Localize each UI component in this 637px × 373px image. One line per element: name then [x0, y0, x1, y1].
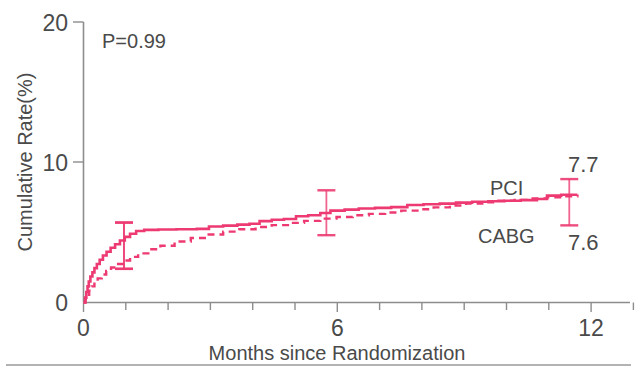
x-axis-title: Months since Randomization — [209, 342, 466, 364]
cabg-final-value-label: 7.6 — [568, 230, 599, 255]
y-tick-label-10: 10 — [42, 150, 68, 176]
x-tick-label-12: 12 — [578, 315, 604, 341]
y-tick-label-20: 20 — [42, 10, 68, 36]
chart-background — [0, 0, 637, 373]
figure-container: 20 10 0 0 6 12 Cumulative Rate(%) Months… — [0, 0, 637, 373]
p-value-annotation: P=0.99 — [102, 30, 166, 52]
cabg-series-label: CABG — [478, 225, 535, 247]
pci-final-value-label: 7.7 — [568, 152, 599, 177]
pci-series-label: PCI — [490, 177, 523, 199]
y-tick-label-0: 0 — [55, 290, 68, 316]
y-axis-title: Cumulative Rate(%) — [14, 73, 36, 252]
x-tick-label-0: 0 — [77, 315, 90, 341]
x-tick-label-6: 6 — [331, 315, 344, 341]
cumulative-event-rate-chart: 20 10 0 0 6 12 Cumulative Rate(%) Months… — [0, 0, 637, 373]
